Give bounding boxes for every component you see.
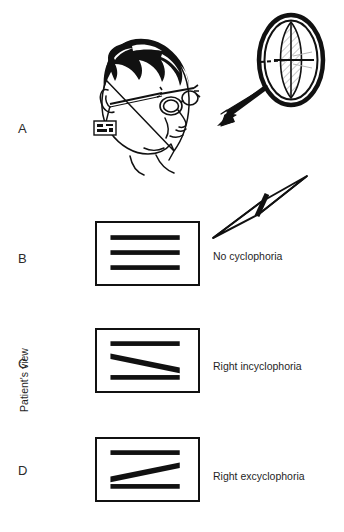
- bottom-bar: [110, 484, 179, 489]
- panel-letter-a: A: [18, 122, 27, 135]
- bottom-bar: [110, 375, 179, 380]
- middle-bar: [110, 250, 179, 255]
- trial-frame-glasses-icon: [110, 85, 200, 115]
- middle-bar: [110, 353, 179, 373]
- target-box-b: [95, 221, 200, 286]
- caption-right-incyclophoria: Right incyclophoria: [213, 361, 302, 372]
- patients-view-label: Patient's view: [18, 332, 30, 428]
- caption-no-cyclophoria: No cyclophoria: [213, 251, 282, 262]
- double-prism-icon: [203, 172, 315, 244]
- top-bar: [110, 450, 179, 455]
- bar-group-b: [110, 235, 179, 270]
- patient-head-icon: [70, 18, 210, 178]
- middle-bar: [110, 462, 179, 482]
- top-bar: [110, 341, 179, 346]
- panel-letter-c: C: [18, 357, 28, 370]
- caption-right-excyclophoria: Right excyclophoria: [213, 471, 305, 482]
- bottom-bar: [110, 265, 179, 270]
- cyclophoria-figure: Patient's view A B C D: [0, 0, 344, 532]
- bar-group-d: [110, 450, 179, 488]
- panel-letter-d: D: [18, 464, 28, 477]
- bar-group-c: [110, 341, 179, 379]
- top-bar: [110, 235, 179, 240]
- target-box-d: [95, 437, 200, 502]
- target-box-c: [95, 328, 200, 393]
- panel-letter-b: B: [18, 252, 27, 265]
- arrow-icon: [205, 82, 271, 132]
